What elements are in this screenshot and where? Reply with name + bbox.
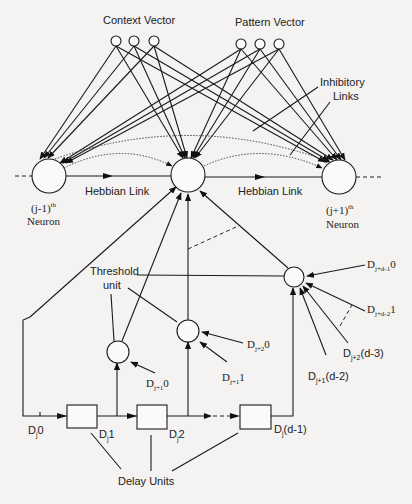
pattern-vector-nodes: [236, 39, 284, 49]
hebbian-link-left-label: Hebbian Link: [85, 185, 150, 197]
threshold-leader-1: [111, 294, 114, 341]
neuron-j-plus-1: [322, 160, 356, 194]
pattern-vector-label: Pattern Vector: [235, 16, 305, 28]
hebbian-link-right-label: Hebbian Link: [238, 185, 303, 197]
label-dj2: Dj2: [169, 428, 185, 443]
hebbian-arrow-right: [255, 174, 265, 180]
delay-unit-1: [67, 405, 97, 428]
right-neuron-label: Neuron: [326, 218, 359, 230]
inhibitory-leader-line-1: [253, 87, 318, 131]
label-dj1-0: Dj+10: [146, 377, 169, 392]
right-neuron-index: (j+1)th: [326, 203, 354, 217]
context-vector-label: Context Vector: [103, 14, 175, 26]
threshold-unit-label-1: Threshold: [90, 265, 139, 277]
threshold-unit-label-2: unit: [103, 279, 121, 291]
threshold-unit-2: [177, 320, 199, 342]
context-vector-nodes: [111, 36, 159, 46]
label-dj1-d2: Dj+1(d-2): [308, 370, 349, 385]
label-djd2-1: Dj+d-21: [367, 303, 396, 318]
hebbian-arrow-left: [103, 173, 113, 179]
inhibitory-leader-line-2: [290, 102, 330, 155]
neural-network-diagram: Context Vector Pattern Vector: [0, 0, 412, 504]
label-dj1-1: Dj+11: [222, 371, 245, 386]
label-dj2-d3: Dj+2(d-3): [343, 347, 384, 362]
input-connections: [40, 46, 345, 163]
label-dj-d1: Dj(d-1): [274, 423, 307, 438]
neuron-j: [171, 158, 205, 192]
threshold-unit-1: [107, 341, 129, 363]
delay-units-label: Delay Units: [118, 475, 175, 487]
inhibitory-links-label-1: Inhibitory: [320, 76, 365, 88]
left-neuron-label: Neuron: [27, 215, 60, 227]
label-dj2-0: Dj+20: [247, 338, 270, 353]
threshold-leader-horizontal: [137, 275, 284, 276]
threshold3-to-neuron: [200, 191, 288, 268]
dj0-feed-line: [23, 317, 67, 416]
label-djd1-0: Dj+d-10: [367, 258, 396, 273]
threshold-unit-3: [284, 267, 304, 287]
inhibitory-links-label-2: Links: [333, 90, 359, 102]
label-dj1: Dj1: [99, 428, 115, 443]
neuron-j-minus-1: [32, 159, 66, 193]
dashed-ellipsis-right: [340, 305, 352, 326]
dashed-ellipsis-center: [188, 227, 236, 249]
threshold-leader-2: [128, 288, 177, 322]
delay-unit-d-1: [240, 405, 271, 429]
label-dj0: Dj0: [28, 424, 44, 439]
delay-unit-2: [137, 405, 167, 429]
left-neuron-index: (j-1)th: [31, 201, 56, 215]
